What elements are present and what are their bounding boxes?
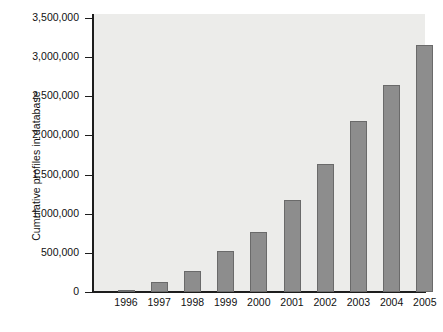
y-axis-tick-label-container: 500,000 [0, 247, 92, 259]
x-axis-tick-label: 2005 [405, 296, 443, 309]
y-axis-tick-label: 1,500,000 [0, 169, 92, 180]
bar-2005 [416, 45, 433, 292]
bar-2000 [250, 232, 267, 292]
y-axis-tick-label: 3,500,000 [0, 12, 92, 23]
bar-chart: Cumulative profiles in database 0500,000… [0, 0, 443, 332]
bar-1999 [217, 251, 234, 292]
bar-2003 [350, 121, 367, 292]
y-axis-tick-label: 3,000,000 [0, 51, 92, 62]
y-axis-line [92, 14, 94, 293]
bar-2001 [284, 200, 301, 292]
y-axis-tick-label-container: 2,500,000 [0, 90, 92, 102]
bar-2002 [317, 164, 334, 292]
y-axis-tick-label-container: 3,500,000 [0, 12, 92, 24]
y-axis-tick-label: 500,000 [0, 247, 92, 258]
bar-1997 [151, 282, 168, 292]
y-axis-tick-label-container: 2,000,000 [0, 129, 92, 141]
y-axis-tick-label: 1,000,000 [0, 208, 92, 219]
y-axis-tick-label: 2,500,000 [0, 90, 92, 101]
y-axis-tick-label-container: 1,000,000 [0, 208, 92, 220]
y-axis-tick-label-container: 1,500,000 [0, 169, 92, 181]
y-axis-tick-label-container: 0 [0, 286, 92, 298]
bar-1996 [118, 290, 135, 292]
y-axis-tick-label: 0 [0, 286, 92, 297]
bar-2004 [383, 85, 400, 292]
y-axis-tick-label: 2,000,000 [0, 129, 92, 140]
y-axis-tick-label-container: 3,000,000 [0, 51, 92, 63]
bar-1998 [184, 271, 201, 292]
